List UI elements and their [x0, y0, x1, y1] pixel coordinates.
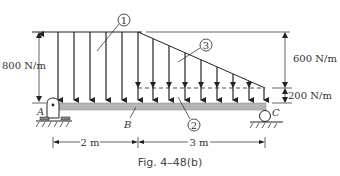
label-b: B: [123, 119, 131, 130]
figure-caption: Fig. 4–48(b): [138, 156, 203, 169]
callout-3-label: 3: [203, 40, 209, 51]
uniform-load-arrows: [58, 32, 138, 100]
label-600: 600 N/m: [293, 53, 337, 64]
distributed-load-diagram: 800 N/m: [0, 0, 340, 176]
label-200: 200 N/m: [288, 90, 332, 101]
dashed-line-arrowheads: [135, 82, 252, 88]
callout-2-label: 2: [191, 120, 197, 131]
label-c: C: [272, 107, 280, 118]
label-2m: 2 m: [80, 137, 100, 148]
beam: [56, 103, 266, 110]
callout-1-label: 1: [121, 15, 127, 26]
label-a: A: [36, 106, 44, 117]
label-3m: 3 m: [189, 137, 209, 148]
label-800: 800 N/m: [2, 60, 46, 71]
